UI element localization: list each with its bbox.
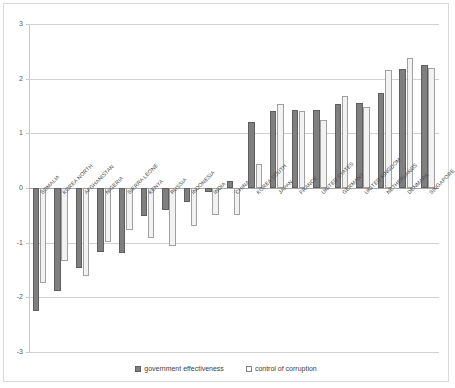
bar-government-effectiveness	[76, 188, 82, 268]
bar-government-effectiveness	[292, 110, 298, 188]
bar-control-of-corruption	[299, 111, 305, 188]
bar-control-of-corruption	[83, 188, 89, 276]
filled-square-icon	[135, 366, 141, 372]
y-tick-label-0: 0	[5, 184, 23, 191]
bar-control-of-corruption	[61, 188, 67, 261]
bar-control-of-corruption	[105, 188, 111, 242]
y-tick-label--1: -1	[5, 239, 23, 246]
legend-item-government-effectiveness[interactable]: government effectiveness	[135, 365, 224, 372]
bar-government-effectiveness	[141, 188, 147, 216]
bar-government-effectiveness	[97, 188, 103, 252]
bar-government-effectiveness	[162, 188, 168, 210]
y-tick-mark--3	[26, 352, 29, 353]
legend-label-government-effectiveness: government effectiveness	[144, 365, 224, 372]
bar-government-effectiveness	[54, 188, 60, 291]
bar-control-of-corruption	[40, 188, 46, 283]
bar-government-effectiveness	[119, 188, 125, 253]
bar-government-effectiveness	[33, 188, 39, 311]
y-tick-label-3: 3	[5, 20, 23, 27]
bar-government-effectiveness	[227, 181, 233, 188]
y-tick-label-2: 2	[5, 75, 23, 82]
empty-square-icon	[246, 366, 252, 372]
legend-item-control-of-corruption[interactable]: control of corruption	[246, 365, 317, 372]
chart-frame: 3210-1-2-3 SOMALIAKOREA NORTHAFGHANISTAN…	[3, 3, 449, 382]
y-tick-label--2: -2	[5, 293, 23, 300]
y-tick-label--3: -3	[5, 348, 23, 355]
chart-legend: government effectiveness control of corr…	[4, 365, 448, 372]
bar-government-effectiveness	[421, 65, 427, 188]
bar-control-of-corruption	[169, 188, 175, 246]
y-tick-label-1: 1	[5, 129, 23, 136]
bar-control-of-corruption	[428, 68, 434, 188]
bar-government-effectiveness	[248, 122, 254, 188]
bar-control-of-corruption	[320, 120, 326, 188]
legend-label-control-of-corruption: control of corruption	[255, 365, 317, 372]
bar-government-effectiveness	[205, 188, 211, 192]
gridline--3	[29, 352, 439, 353]
